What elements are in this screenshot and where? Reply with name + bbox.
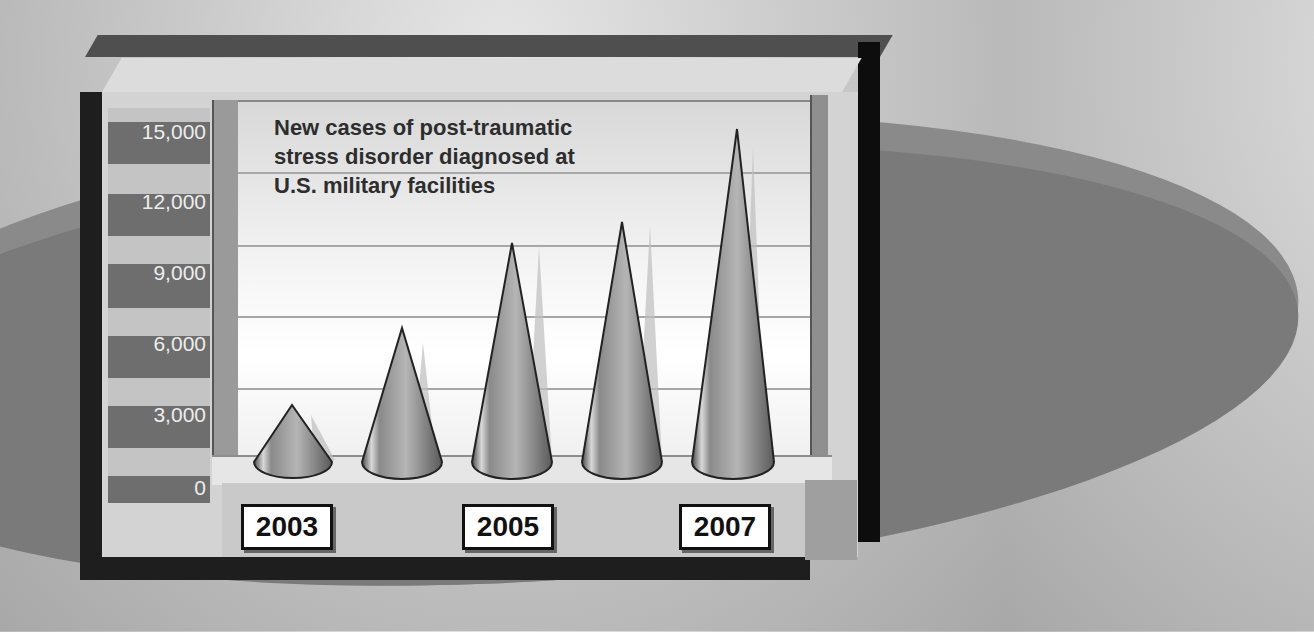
cone-2006: [582, 222, 662, 479]
x-tick-label-2007: 2007: [679, 504, 771, 550]
x-tick-label-2005: 2005: [462, 504, 554, 550]
cone-2005: [472, 243, 552, 479]
cone-2003: [254, 405, 335, 478]
x-tick-label-2003: 2003: [241, 504, 333, 550]
cone-2007: [692, 129, 774, 479]
cone-2004: [362, 328, 442, 479]
